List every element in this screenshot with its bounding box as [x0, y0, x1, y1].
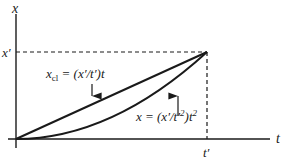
x-axis-label: t: [276, 131, 281, 146]
classical-line: [16, 52, 207, 139]
y-axis-label: x: [11, 1, 19, 16]
classical-line-label: xcl = (x′/t′)t: [45, 66, 105, 83]
quadratic-curve-label: x = (x′/t′2)t2: [135, 108, 198, 124]
diagram-canvas: x t x′ t′ xcl = (x′/t′)t x = (x′/t′2)t2: [0, 0, 298, 158]
x-tick-label: t′: [203, 145, 210, 158]
y-tick-label: x′: [1, 45, 11, 60]
